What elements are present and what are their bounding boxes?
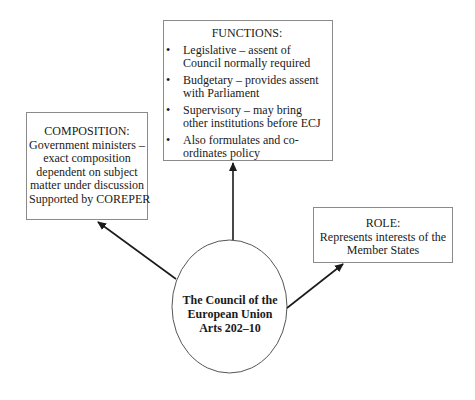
composition-text-line: Supported by COREPER [29, 193, 145, 207]
composition-text-line: Government ministers – [29, 139, 145, 153]
role-heading: ROLE: [316, 217, 450, 231]
composition-text-line: dependent on subject [29, 166, 145, 180]
composition-box: COMPOSITION: Government ministers – exac… [26, 112, 148, 220]
functions-heading: FUNCTIONS: [166, 27, 328, 41]
functions-item-text: Supervisory – may bring other institutio… [183, 103, 321, 131]
functions-item-budgetary: • Budgetary – provides assent with Parli… [166, 74, 328, 101]
arrow-to-composition [98, 222, 176, 279]
bullet-icon: • [166, 74, 170, 88]
role-box: ROLE: Represents interests of the Member… [313, 207, 453, 263]
bullet-icon: • [166, 104, 170, 118]
council-title-line: European Union [172, 307, 288, 321]
council-title-line: The Council of the [172, 293, 288, 307]
arrow-to-role [287, 264, 343, 308]
role-text-line: Represents interests of the [316, 231, 450, 245]
composition-text-line: exact composition [29, 152, 145, 166]
functions-list: • Legislative – assent of Council normal… [166, 44, 328, 161]
composition-heading: COMPOSITION: [29, 125, 145, 139]
composition-text-line: matter under discussion [29, 179, 145, 193]
functions-item-text: Legislative – assent of Council normally… [183, 43, 310, 71]
functions-item-text: Also formulates and co-ordinates policy [183, 133, 299, 161]
role-text-line: Member States [316, 244, 450, 258]
council-label: The Council of the European Union Arts 2… [172, 293, 288, 335]
council-articles: Arts 202–10 [172, 321, 288, 335]
bullet-icon: • [166, 44, 170, 58]
functions-item-policy: • Also formulates and co-ordinates polic… [166, 134, 328, 161]
functions-item-text: Budgetary – provides assent with Parliam… [183, 73, 319, 101]
functions-box: FUNCTIONS: • Legislative – assent of Cou… [163, 20, 333, 161]
functions-item-legislative: • Legislative – assent of Council normal… [166, 44, 328, 71]
functions-item-supervisory: • Supervisory – may bring other institut… [166, 104, 328, 131]
bullet-icon: • [166, 134, 170, 148]
